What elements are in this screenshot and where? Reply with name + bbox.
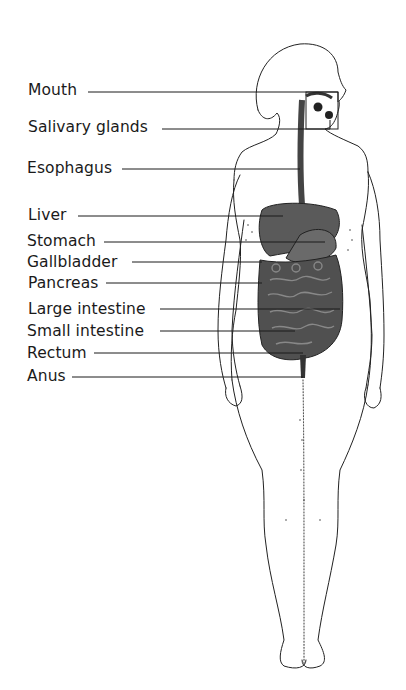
label-gallbladder: Gallbladder [27, 253, 117, 271]
label-pancreas: Pancreas [28, 274, 98, 292]
head-outline [256, 44, 368, 172]
label-small-intestine: Small intestine [27, 322, 144, 340]
label-liver: Liver [28, 206, 67, 224]
right-leg [302, 385, 368, 668]
label-salivary-glands: Salivary glands [28, 118, 148, 136]
left-leg [232, 380, 306, 668]
label-mouth: Mouth [28, 81, 77, 99]
torso-right [362, 172, 372, 385]
inner-leg-line [303, 380, 304, 665]
esophagus-tube [301, 100, 303, 205]
label-stomach: Stomach [27, 232, 96, 250]
left-arm-inner [232, 220, 244, 386]
rectum-shape [300, 355, 306, 378]
label-large-intestine: Large intestine [28, 300, 146, 318]
label-esophagus: Esophagus [27, 159, 112, 177]
organs [258, 203, 343, 378]
label-anus: Anus [27, 367, 66, 385]
left-arm [218, 175, 240, 388]
digestive-system-figure: Mouth Salivary glands Esophagus Liver St… [0, 0, 406, 690]
label-rectum: Rectum [27, 344, 87, 362]
